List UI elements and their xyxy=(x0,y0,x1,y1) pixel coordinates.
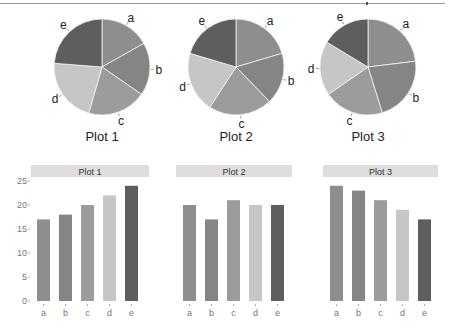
pie-label-c: c xyxy=(346,114,352,128)
bar-b xyxy=(205,219,218,301)
pie-label-leader xyxy=(59,95,61,97)
x-tick-label-b: b xyxy=(356,308,361,318)
pie-label-b: b xyxy=(413,91,420,105)
bar-e xyxy=(418,219,431,301)
bar-e xyxy=(125,186,138,301)
x-tick-label-e: e xyxy=(129,308,134,318)
bar-a xyxy=(330,186,343,301)
bar-chart-2: Plot 2abcde xyxy=(176,165,292,318)
x-tick-label-d: d xyxy=(400,308,405,318)
x-tick-label-e: e xyxy=(275,308,280,318)
pie-label-b: b xyxy=(288,74,295,88)
facet-strip-title: Plot 3 xyxy=(369,167,392,177)
pie-label-b: b xyxy=(156,63,163,77)
pie-label-c: c xyxy=(118,114,124,128)
y-tick-label: 0 xyxy=(22,296,27,306)
pie-chart-2: abcdePlot 2 xyxy=(179,14,295,144)
pie-label-d: d xyxy=(52,92,59,106)
y-tick-label: 25 xyxy=(17,176,27,186)
pie-label-d: d xyxy=(308,62,315,76)
y-tick-label: 5 xyxy=(22,272,27,282)
x-tick-label-d: d xyxy=(107,308,112,318)
bar-c xyxy=(227,200,240,301)
pie-label-a: a xyxy=(267,14,274,28)
pie-label-e: e xyxy=(337,10,344,24)
pie-title: Plot 3 xyxy=(351,129,384,144)
bar-e xyxy=(271,205,284,301)
pie-label-e: e xyxy=(199,14,206,28)
x-tick-label-b: b xyxy=(63,308,68,318)
pie-label-leader xyxy=(187,84,190,85)
bar-c xyxy=(374,200,387,301)
bar-c xyxy=(81,205,94,301)
bar-d xyxy=(249,205,262,301)
bar-chart-3: Plot 3abcde xyxy=(323,165,438,318)
bar-b xyxy=(59,215,72,301)
x-tick-label-a: a xyxy=(187,308,192,318)
x-tick-label-e: e xyxy=(422,308,427,318)
facet-strip-title: Plot 2 xyxy=(222,167,245,177)
bar-d xyxy=(103,195,116,301)
pie-title: Plot 1 xyxy=(85,129,118,144)
bar-a xyxy=(37,219,50,301)
pie-label-leader xyxy=(67,29,69,31)
bar-b xyxy=(352,191,365,301)
x-tick-label-c: c xyxy=(231,308,236,318)
pie-label-e: e xyxy=(60,18,67,32)
pie-label-a: a xyxy=(402,17,409,31)
x-tick-label-c: c xyxy=(378,308,383,318)
x-tick-label-a: a xyxy=(41,308,46,318)
y-tick-label: 10 xyxy=(17,248,27,258)
pie-label-leader xyxy=(409,94,412,96)
pie-title: Plot 2 xyxy=(219,129,252,144)
y-tick-label: 15 xyxy=(17,224,27,234)
pie-chart-3: abcdePlot 3 xyxy=(308,10,420,144)
x-tick-label-a: a xyxy=(334,308,339,318)
pie-label-a: a xyxy=(127,11,134,25)
x-tick-label-d: d xyxy=(253,308,258,318)
pie-label-d: d xyxy=(179,80,186,94)
pie-chart-1: abcdePlot 1 xyxy=(52,11,163,144)
chart-canvas: abcdePlot 1abcdePlot 2abcdePlot 3Plot 1a… xyxy=(0,0,450,331)
bar-a xyxy=(183,205,196,301)
bar-chart-1: Plot 1abcde0510152025 xyxy=(17,165,149,318)
y-tick-label: 20 xyxy=(17,200,27,210)
facet-strip-title: Plot 1 xyxy=(78,167,101,177)
bar-d xyxy=(396,210,409,301)
pie-label-leader xyxy=(283,79,286,80)
x-tick-label-b: b xyxy=(209,308,214,318)
x-tick-label-c: c xyxy=(85,308,90,318)
